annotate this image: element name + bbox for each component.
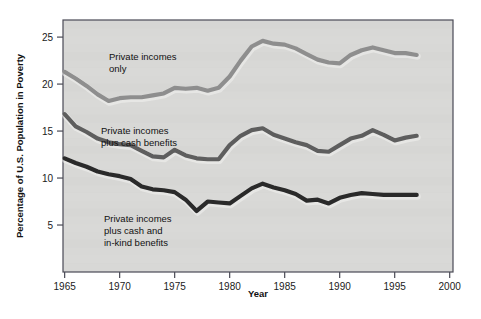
x-tick-label: 1965 <box>54 281 77 292</box>
series-label-bottom-line2: plus cash and <box>104 225 163 236</box>
paper-texture-band <box>64 162 452 170</box>
x-axis-title: Year <box>248 288 268 299</box>
series-label-bottom-line3: in-kind benefits <box>104 237 168 248</box>
paper-texture-band <box>64 84 452 92</box>
y-tick-label: 25 <box>42 32 54 43</box>
series-label-middle-line1: Private incomes <box>101 125 169 136</box>
paper-texture-band <box>64 21 452 29</box>
y-tick-label: 15 <box>42 126 54 137</box>
series-label-bottom-line1: Private incomes <box>104 213 172 224</box>
series-label-top-line2: only <box>109 63 127 74</box>
paper-texture-band <box>64 255 452 263</box>
x-tick-label: 1970 <box>109 281 132 292</box>
y-axis-title: Percentage of U.S. Population in Poverty <box>14 53 25 238</box>
x-tick-label: 1995 <box>384 281 407 292</box>
poverty-line-chart: 1965 1970 1975 1980 1985 1990 1995 2000 … <box>0 0 481 319</box>
series-label-top-line1: Private incomes <box>109 51 177 62</box>
series-label-middle-line2: plus cash benefits <box>101 137 177 148</box>
y-tick-label: 5 <box>47 220 53 231</box>
y-tick-label: 20 <box>42 79 54 90</box>
x-tick-label: 1990 <box>329 281 352 292</box>
x-tick-label: 1985 <box>274 281 297 292</box>
y-tick-label: 10 <box>42 173 54 184</box>
x-tick-label: 1980 <box>219 281 242 292</box>
x-tick-label: 1975 <box>164 281 187 292</box>
paper-texture-band <box>64 115 452 123</box>
x-tick-label: 2000 <box>439 281 462 292</box>
